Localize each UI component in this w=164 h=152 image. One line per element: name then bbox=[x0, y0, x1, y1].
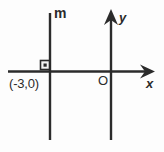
y-axis-label: y bbox=[119, 11, 126, 24]
right-angle-marker-dot-icon bbox=[44, 64, 47, 67]
coordinate-plane-figure: m y x O (-3,0) bbox=[0, 0, 164, 152]
x-axis-label: x bbox=[146, 77, 153, 90]
origin-label: O bbox=[98, 74, 108, 87]
line-m-label: m bbox=[54, 6, 66, 20]
point-coordinate-label: (-3,0) bbox=[9, 77, 39, 90]
